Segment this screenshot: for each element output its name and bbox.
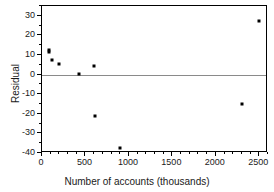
x-tick bbox=[67, 152, 68, 154]
plot-area bbox=[41, 5, 267, 152]
y-tick-label: 20 bbox=[25, 29, 35, 39]
x-tick-label: 2500 bbox=[248, 157, 268, 167]
x-tick bbox=[128, 152, 129, 156]
y-tick-label: -20 bbox=[22, 108, 35, 118]
x-tick bbox=[111, 152, 112, 154]
x-tick bbox=[171, 152, 172, 156]
x-tick bbox=[76, 152, 77, 154]
y-tick bbox=[39, 64, 41, 65]
y-tick bbox=[39, 83, 41, 84]
y-tick-label: -10 bbox=[22, 88, 35, 98]
y-tick bbox=[39, 142, 41, 143]
scatter-chart: 05001000150020002500 3020100-10-20-30-40… bbox=[0, 0, 274, 192]
y-tick bbox=[39, 103, 41, 104]
y-tick bbox=[37, 74, 41, 75]
data-point bbox=[93, 64, 96, 67]
x-tick bbox=[241, 152, 242, 154]
x-tick bbox=[250, 152, 251, 154]
x-tick bbox=[41, 152, 42, 156]
x-tick bbox=[189, 152, 190, 154]
data-point bbox=[50, 58, 53, 61]
y-tick bbox=[39, 5, 41, 6]
zero-reference-line bbox=[42, 75, 266, 76]
y-tick bbox=[37, 54, 41, 55]
y-tick-label: 30 bbox=[25, 10, 35, 20]
y-tick bbox=[37, 132, 41, 133]
x-tick-label: 0 bbox=[38, 157, 43, 167]
x-tick bbox=[267, 152, 268, 154]
x-tick bbox=[154, 152, 155, 154]
data-point bbox=[93, 114, 96, 117]
y-tick bbox=[39, 44, 41, 45]
data-point bbox=[258, 19, 261, 22]
y-tick bbox=[39, 25, 41, 26]
data-point bbox=[57, 63, 60, 66]
x-tick bbox=[84, 152, 85, 156]
x-tick bbox=[50, 152, 51, 154]
x-tick bbox=[102, 152, 103, 154]
x-tick bbox=[93, 152, 94, 154]
y-tick bbox=[39, 123, 41, 124]
y-tick bbox=[37, 152, 41, 153]
y-tick bbox=[37, 15, 41, 16]
x-tick bbox=[224, 152, 225, 154]
x-tick bbox=[215, 152, 216, 156]
y-tick bbox=[37, 113, 41, 114]
y-tick-label: -40 bbox=[22, 147, 35, 157]
x-tick-label: 1000 bbox=[118, 157, 138, 167]
x-axis-title: Number of accounts (thousands) bbox=[0, 176, 274, 188]
y-tick-label: -30 bbox=[22, 127, 35, 137]
data-point bbox=[77, 73, 80, 76]
x-tick-label: 500 bbox=[77, 157, 92, 167]
data-point bbox=[48, 51, 51, 54]
x-tick bbox=[145, 152, 146, 154]
x-tick-label: 2000 bbox=[205, 157, 225, 167]
x-tick bbox=[197, 152, 198, 154]
y-tick-label: 10 bbox=[25, 49, 35, 59]
data-point bbox=[240, 103, 243, 106]
y-tick-label: 0 bbox=[30, 69, 35, 79]
x-tick bbox=[119, 152, 120, 154]
x-tick bbox=[258, 152, 259, 156]
y-axis-title: Residual bbox=[10, 64, 22, 103]
x-tick bbox=[163, 152, 164, 154]
x-tick bbox=[180, 152, 181, 154]
x-tick-label: 1500 bbox=[161, 157, 181, 167]
x-tick bbox=[137, 152, 138, 154]
x-tick bbox=[232, 152, 233, 154]
data-point bbox=[119, 147, 122, 150]
x-tick bbox=[58, 152, 59, 154]
y-tick bbox=[37, 93, 41, 94]
x-tick bbox=[206, 152, 207, 154]
y-tick bbox=[37, 34, 41, 35]
